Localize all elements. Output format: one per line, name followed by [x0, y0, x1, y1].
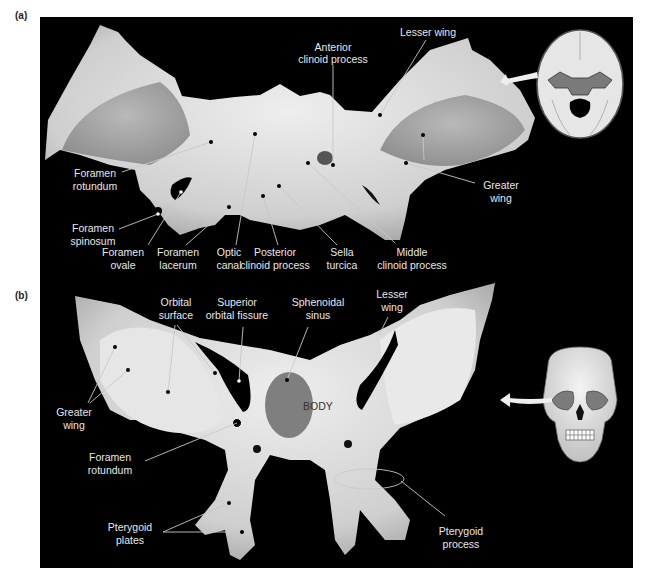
svg-text:rotundum: rotundum — [88, 464, 133, 476]
label-foramen-ovale: Foramen — [102, 246, 144, 258]
svg-text:ovale: ovale — [110, 259, 135, 271]
svg-text:turcica: turcica — [327, 259, 358, 271]
svg-text:clinoid process: clinoid process — [240, 259, 309, 271]
svg-text:sinus: sinus — [306, 309, 331, 321]
label-pterygoid-plates: Pterygoid — [108, 521, 153, 533]
svg-text:wing: wing — [380, 301, 403, 313]
label-orbital-surface: Orbital — [161, 296, 192, 308]
label-foramen-lacerum: Foramen — [157, 246, 199, 258]
label-foramen-rotundum-b: Foramen — [89, 451, 131, 463]
label-greater-wing-a: Greater — [483, 179, 519, 191]
label-posterior-clinoid-process: Posterior — [254, 246, 297, 258]
svg-text:lacerum: lacerum — [159, 259, 197, 271]
label-sphenoidal-sinus: Sphenoidal — [292, 296, 345, 308]
svg-text:orbital fissure: orbital fissure — [206, 309, 269, 321]
label-greater-wing-b: Greater — [56, 406, 92, 418]
label-foramen-spinosum: Foramen — [72, 222, 114, 234]
svg-text:plates: plates — [116, 534, 144, 546]
svg-text:process: process — [443, 538, 480, 550]
optic-foramen-hole — [317, 151, 333, 165]
label-body: BODY — [303, 400, 333, 412]
svg-text:surface: surface — [159, 309, 194, 321]
label-superior-orbital-fissure: Superior — [217, 296, 257, 308]
label-sella-turcica: Sella — [330, 246, 354, 258]
svg-text:clinoid process: clinoid process — [377, 259, 446, 271]
label-anterior-clinoid-process: Anterior — [315, 41, 352, 53]
svg-text:wing: wing — [489, 192, 512, 204]
label-middle-clinoid-process: Middle — [397, 246, 428, 258]
label-foramen-rotundum-a: Foramen — [74, 167, 116, 179]
label-optic-canal: Optic — [217, 246, 242, 258]
inset-skull-floor — [537, 30, 623, 138]
label-lesser-wing-b: Lesser — [376, 288, 408, 300]
figure-canvas: Anterior clinoid process Lesser wing For… — [0, 0, 649, 582]
svg-text:wing: wing — [62, 419, 85, 431]
svg-text:canal: canal — [216, 259, 241, 271]
label-lesser-wing-a: Lesser wing — [400, 26, 456, 38]
label-pterygoid-process: Pterygoid — [439, 525, 484, 537]
svg-text:clinoid process: clinoid process — [298, 53, 367, 65]
svg-text:rotundum: rotundum — [73, 180, 118, 192]
